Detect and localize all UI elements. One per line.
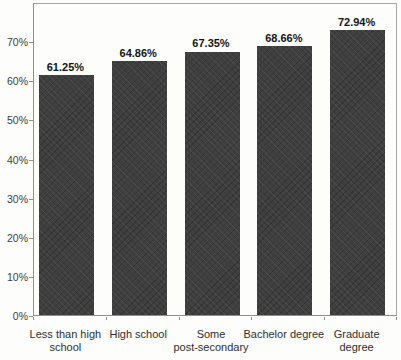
- y-axis-tick-mark: [29, 160, 33, 161]
- y-axis-tick-label: 0%: [0, 311, 28, 321]
- x-axis-tick-mark: [33, 317, 34, 320]
- bar-value-label: 64.86%: [106, 47, 170, 59]
- bar-value-label: 72.94%: [325, 16, 389, 28]
- y-axis-tick-label: 50%: [0, 115, 28, 125]
- x-axis-category-label: Graduate degree: [314, 328, 400, 354]
- bar-1: [39, 75, 94, 315]
- x-axis-tick-mark: [324, 317, 325, 320]
- y-axis-tick-label: 40%: [0, 155, 28, 165]
- bar-4: [257, 46, 312, 315]
- y-axis-tick-mark: [29, 42, 33, 43]
- y-axis-tick-label: 20%: [0, 233, 28, 243]
- plot-area: [33, 3, 397, 316]
- x-axis-tick-mark: [396, 317, 397, 320]
- y-axis-tick-label: 70%: [0, 37, 28, 47]
- x-axis-tick-mark: [251, 317, 252, 320]
- bar-2: [112, 61, 167, 315]
- y-axis-tick-mark: [29, 199, 33, 200]
- x-axis-tick-mark: [179, 317, 180, 320]
- y-axis-tick-mark: [29, 81, 33, 82]
- x-axis-tick-mark: [106, 317, 107, 320]
- y-axis-tick-label: 30%: [0, 194, 28, 204]
- bar-chart: 0%10%20%30%40%50%60%70%61.25%Less than h…: [0, 0, 401, 360]
- bar-5: [330, 30, 385, 315]
- bar-value-label: 68.66%: [252, 32, 316, 44]
- bar-value-label: 67.35%: [179, 37, 243, 49]
- y-axis-tick-mark: [29, 277, 33, 278]
- y-axis-tick-mark: [29, 238, 33, 239]
- y-axis-tick-label: 10%: [0, 272, 28, 282]
- bar-3: [185, 52, 240, 316]
- y-axis-tick-mark: [29, 120, 33, 121]
- bar-value-label: 61.25%: [33, 61, 97, 73]
- y-axis-tick-label: 60%: [0, 76, 28, 86]
